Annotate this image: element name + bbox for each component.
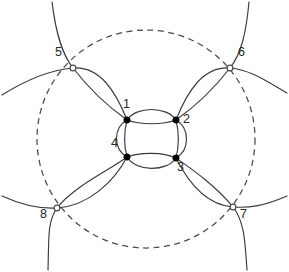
node-marker-4 — [124, 154, 130, 160]
inner-arc-bottom — [127, 157, 176, 168]
point-label-7: 7 — [240, 208, 247, 221]
diagram-canvas — [0, 0, 289, 272]
inner-arc-right — [176, 120, 178, 158]
node-marker-2 — [173, 117, 179, 123]
arc-upper-left-a — [52, 2, 127, 120]
arc-upper-right-a — [176, 2, 249, 120]
point-label-5: 5 — [55, 46, 62, 59]
node-marker-group — [54, 65, 236, 211]
arc-upper-right-b — [176, 68, 287, 120]
inner-chord-bottom — [127, 153, 176, 158]
point-label-2: 2 — [183, 113, 190, 126]
point-label-1: 1 — [123, 98, 130, 111]
inner-chord-top — [127, 120, 176, 124]
arc-lower-left-a — [48, 157, 127, 270]
node-marker-8 — [54, 205, 60, 211]
outer-arc-group — [2, 2, 287, 270]
point-label-6: 6 — [238, 46, 245, 59]
arc-lower-right-a — [176, 158, 247, 270]
node-marker-1 — [124, 117, 130, 123]
arc-lower-right-b — [176, 158, 287, 207]
node-marker-7 — [230, 204, 236, 210]
point-label-4: 4 — [111, 137, 118, 150]
inner-arc-top — [127, 110, 176, 121]
figure-root: 1 2 3 4 5 6 7 8 — [0, 0, 289, 272]
arc-upper-left-b — [2, 68, 127, 120]
node-marker-5 — [70, 65, 76, 71]
point-label-3: 3 — [177, 161, 184, 174]
point-label-8: 8 — [40, 208, 47, 221]
inner-arc-left — [125, 120, 127, 157]
node-marker-6 — [227, 65, 233, 71]
